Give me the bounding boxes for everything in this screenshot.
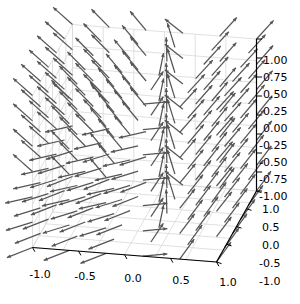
quiver-arrow (114, 40, 130, 59)
quiver-arrow (59, 91, 77, 109)
quiver-arrow (180, 214, 195, 234)
z-axis-ticklabel-0: 1.00 (263, 54, 288, 67)
quiver-arrow (143, 202, 167, 206)
quiver-arrow-shaft (14, 208, 41, 216)
quiver-arrow (143, 101, 167, 105)
quiver-arrow (233, 113, 249, 132)
quiver-arrow-shaft (80, 228, 107, 236)
quiver-arrow-head (44, 257, 48, 260)
quiver-arrow (180, 114, 197, 133)
quiver-arrow (59, 66, 77, 84)
quiver-arrow (220, 143, 235, 163)
quiver-arrow-head (96, 232, 100, 235)
quiver-arrow (67, 52, 85, 70)
quiver-arrow (122, 51, 138, 70)
quiver-arrow (13, 154, 32, 171)
z-axis-ticklabel-5: -0.25 (259, 139, 287, 152)
quiver-arrow (83, 49, 101, 67)
x-axis-ticklabel-3: 0.5 (172, 274, 190, 287)
quiver-arrow (90, 108, 106, 127)
quiver-arrow (241, 149, 256, 169)
quiver-arrow (204, 146, 219, 166)
quiver-arrow (74, 143, 101, 150)
quiver-arrow-head (14, 213, 18, 216)
quiver-arrow (165, 189, 169, 213)
quiver-arrow (21, 140, 40, 157)
quiver-arrow (225, 152, 241, 171)
quiver-arrow-head (84, 186, 88, 189)
quiver-arrow (196, 186, 211, 206)
quiver-arrow (91, 60, 109, 78)
quiver-arrow (106, 79, 122, 98)
quiver-arrow-shaft (74, 143, 101, 149)
quiver-arrow (241, 99, 257, 118)
quiver-arrow-head (60, 229, 64, 232)
quiver-arrow-shaft (43, 225, 70, 233)
y-axis-ticklabel-0: 1.0 (262, 203, 280, 216)
quiver-arrow-head (23, 226, 27, 229)
quiver-arrow (51, 80, 69, 98)
quiver-arrow (180, 89, 197, 108)
quiver-arrow (233, 138, 249, 157)
quiver-arrow-head (52, 243, 56, 246)
y-axis-ticklabel-1: 0.5 (262, 221, 280, 234)
quiver-arrow (188, 99, 205, 118)
quiver-arrow-head (7, 254, 11, 257)
quiver-arrow (220, 118, 235, 138)
quiver-arrow (130, 11, 146, 30)
quiver-arrow (122, 76, 138, 95)
quiver-arrow-head (76, 201, 80, 204)
quiver-arrow-head (68, 215, 72, 218)
quiver-arrow-head (165, 37, 169, 41)
quiver-arrow (143, 227, 167, 231)
quiver-arrow (212, 82, 228, 101)
quiver-arrow (233, 163, 248, 183)
y-axis-ticklabel-3: -0.5 (259, 257, 280, 270)
quiver-arrow (122, 101, 138, 120)
quiver-arrow-shaft (15, 233, 41, 243)
quiver-arrow (59, 117, 77, 135)
quiver-arrow-head (15, 240, 19, 243)
quiver-arrow-head (6, 227, 10, 230)
z-axis-ticklabel-3: 0.25 (263, 105, 288, 118)
quiver-arrow-head (165, 164, 169, 168)
quiver-arrow-head (165, 189, 169, 193)
quiver-arrow (75, 63, 93, 81)
quiver-arrow-shaft (6, 222, 33, 230)
quiver-arrow (91, 35, 109, 53)
quiver-arrow (44, 250, 70, 260)
quiver-arrow (130, 87, 146, 106)
quiver-arrow (220, 68, 236, 87)
quiver-arrow (83, 74, 101, 92)
z-axis-ticklabel-1: 0.75 (263, 71, 288, 84)
z-axis-ticklabel-4: 0.00 (263, 122, 288, 135)
quiver-arrow (114, 65, 130, 84)
quiver-arrow (233, 188, 248, 208)
quiver-arrow (143, 177, 167, 181)
quiver-arrow (106, 54, 122, 73)
quiver3d-plot: -1.0-0.50.00.51.01.00.50.0-0.5-1.01.000.… (0, 0, 300, 304)
quiver-arrow-head (80, 260, 84, 263)
quiver-arrow-head (43, 230, 47, 233)
quiver-arrow-head (31, 212, 35, 215)
quiver-arrow (114, 116, 130, 135)
quiver-arrow (217, 91, 234, 110)
quiver-arrow (51, 106, 69, 124)
x-axis-ticklabel-0: -1.0 (29, 268, 50, 281)
quiver-arrow (241, 74, 258, 93)
quiver-arrow (212, 132, 227, 152)
quiver-arrow (188, 124, 204, 143)
quiver-arrow (204, 96, 220, 115)
quiver-arrow-head (120, 189, 124, 192)
quiver-arrow (53, 33, 72, 50)
quiver-arrow (225, 203, 240, 223)
quiver-arrow (196, 135, 212, 154)
quiver-arrow-head (80, 233, 84, 236)
quiver-arrow-head (167, 48, 170, 52)
z-axis-ticklabel-6: -0.50 (259, 156, 287, 169)
quiver-arrow (51, 131, 69, 149)
quiver-arrow (106, 130, 122, 149)
quiver-arrow (15, 233, 41, 243)
z-axis-ticklabel-2: 0.50 (263, 88, 288, 101)
x-axis-ticklabel-1: -0.5 (74, 270, 95, 283)
